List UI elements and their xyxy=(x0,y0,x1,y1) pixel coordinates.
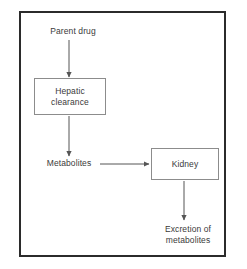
node-hepatic-clearance: Hepatic clearance xyxy=(34,78,106,115)
node-kidney: Kidney xyxy=(151,148,219,180)
node-hepatic-clearance-label: Hepatic clearance xyxy=(51,86,89,108)
figure-frame: Parent drug Hepatic clearance Metabolite… xyxy=(19,11,226,257)
node-parent-drug: Parent drug xyxy=(35,26,111,37)
flowchart-figure: Parent drug Hepatic clearance Metabolite… xyxy=(0,0,247,269)
node-kidney-label: Kidney xyxy=(172,159,199,170)
node-excretion-of-metabolites: Excretion of metabolites xyxy=(148,224,228,246)
node-metabolites: Metabolites xyxy=(39,158,99,169)
